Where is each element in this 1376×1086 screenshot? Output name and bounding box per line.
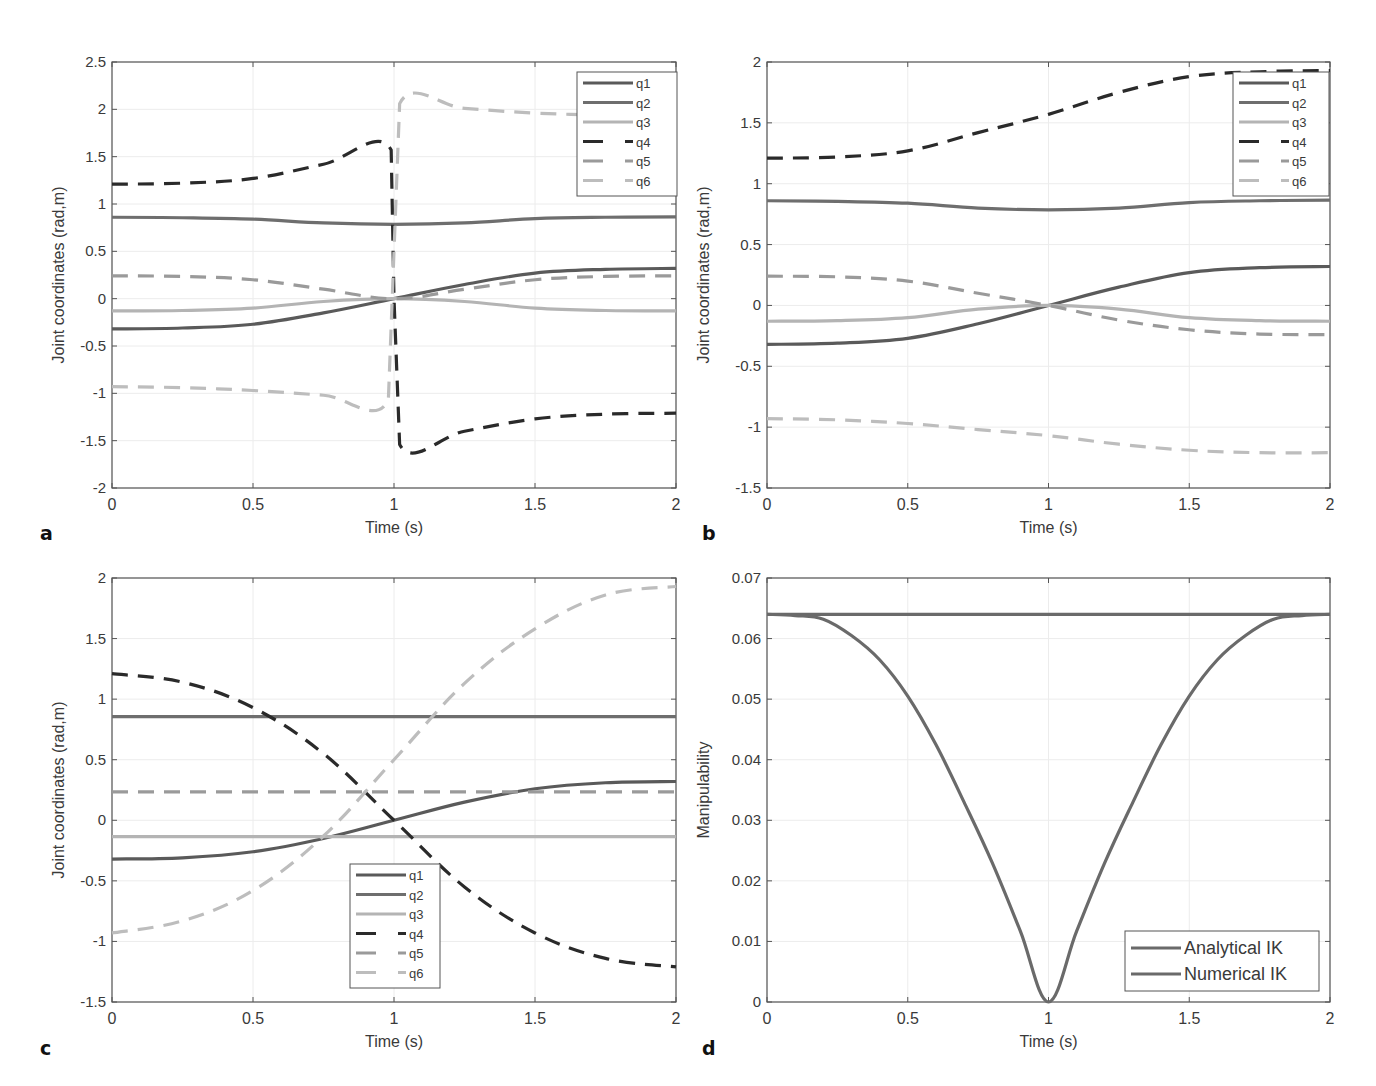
y-tick-label: 0: [98, 290, 106, 307]
y-tick-label: -0.5: [80, 872, 106, 889]
x-tick-label: 0: [763, 496, 772, 513]
x-axis-label: Time (s): [365, 1033, 423, 1050]
y-tick-label: 2: [98, 569, 106, 586]
panel-letter-d: d: [702, 1037, 716, 1059]
y-tick-label: 0.5: [740, 236, 761, 253]
legend: Analytical IKNumerical IK: [1125, 931, 1319, 991]
y-tick-label: 0.03: [732, 811, 761, 828]
legend-entry: q6: [1292, 174, 1306, 189]
x-tick-label: 2: [1326, 496, 1335, 513]
y-tick-label: -1.5: [735, 479, 761, 496]
y-tick-label: -1: [748, 418, 761, 435]
legend: q1q2q3q4q5q6: [350, 864, 440, 988]
x-tick-label: 0: [108, 496, 117, 513]
x-tick-label: 1: [1044, 496, 1053, 513]
panel-letter-c: c: [40, 1037, 51, 1059]
x-tick-label: 0.5: [897, 1010, 919, 1027]
legend-entry: q3: [409, 907, 423, 922]
y-axis-label: Joint coordinates (rad,m): [50, 702, 67, 879]
x-tick-label: 2: [1326, 1010, 1335, 1027]
y-tick-label: 1: [98, 690, 106, 707]
legend-entry: q3: [636, 115, 650, 130]
panel-b: 00.511.52-1.5-1-0.500.511.52Time (s)Join…: [688, 0, 1376, 543]
panel-a: 00.511.52-2-1.5-1-0.500.511.522.5Time (s…: [0, 0, 688, 543]
x-axis-label: Time (s): [365, 519, 423, 536]
legend-entry: Numerical IK: [1184, 964, 1287, 984]
legend-entry: Analytical IK: [1184, 938, 1283, 958]
legend-entry: q1: [1292, 76, 1306, 91]
x-tick-label: 1: [390, 1010, 399, 1027]
x-tick-label: 1.5: [524, 496, 546, 513]
y-tick-label: -1: [93, 932, 106, 949]
y-tick-label: 0.5: [85, 751, 106, 768]
legend-entry: q5: [1292, 154, 1306, 169]
x-tick-label: 0: [108, 1010, 117, 1027]
chart-c: 00.511.52-1.5-1-0.500.511.52Time (s)Join…: [0, 543, 688, 1086]
x-tick-label: 0: [763, 1010, 772, 1027]
y-tick-label: -1.5: [80, 993, 106, 1010]
x-tick-label: 0.5: [242, 1010, 264, 1027]
y-tick-label: 2: [753, 53, 761, 70]
y-tick-label: 0.01: [732, 932, 761, 949]
x-tick-label: 2: [672, 1010, 681, 1027]
y-tick-label: 0: [753, 993, 761, 1010]
chart-a: 00.511.52-2-1.5-1-0.500.511.522.5Time (s…: [0, 0, 688, 543]
legend-entry: q4: [409, 927, 423, 942]
legend: q1q2q3q4q5q6: [1233, 72, 1329, 196]
y-tick-label: 1: [753, 175, 761, 192]
x-tick-label: 0.5: [897, 496, 919, 513]
x-tick-label: 1.5: [1178, 496, 1200, 513]
y-tick-label: 0.04: [732, 751, 761, 768]
legend-entry: q1: [409, 868, 423, 883]
y-tick-label: 1.5: [85, 630, 106, 647]
y-axis-label: Joint coordinates (rad,m): [50, 187, 67, 364]
chart-d: 00.511.5200.010.020.030.040.050.060.07Ti…: [688, 543, 1376, 1086]
y-tick-label: -0.5: [80, 337, 106, 354]
chart-b: 00.511.52-1.5-1-0.500.511.52Time (s)Join…: [688, 0, 1376, 543]
legend-entry: q2: [409, 888, 423, 903]
panel-d: 00.511.5200.010.020.030.040.050.060.07Ti…: [688, 543, 1376, 1086]
legend-entry: q5: [409, 946, 423, 961]
y-axis-label: Joint coordinates (rad,m): [695, 187, 712, 364]
y-tick-label: 1.5: [85, 148, 106, 165]
legend-entry: q6: [409, 966, 423, 981]
legend-entry: q2: [1292, 96, 1306, 111]
y-tick-label: 2.5: [85, 53, 106, 70]
legend-entry: q3: [1292, 115, 1306, 130]
legend-entry: q4: [1292, 135, 1306, 150]
x-tick-label: 0.5: [242, 496, 264, 513]
y-tick-label: 0.05: [732, 690, 761, 707]
panel-letter-a: a: [40, 522, 53, 544]
panel-letter-b: b: [702, 522, 716, 544]
legend-entry: q6: [636, 174, 650, 189]
legend-entry: q5: [636, 154, 650, 169]
y-tick-label: -2: [93, 479, 106, 496]
y-tick-label: 2: [98, 100, 106, 117]
y-tick-label: -1.5: [80, 432, 106, 449]
x-axis-label: Time (s): [1019, 519, 1077, 536]
x-tick-label: 1.5: [524, 1010, 546, 1027]
legend-entry: q1: [636, 76, 650, 91]
legend-entry: q4: [636, 135, 650, 150]
y-tick-label: 0: [753, 296, 761, 313]
x-tick-label: 1: [1044, 1010, 1053, 1027]
y-tick-label: -1: [93, 384, 106, 401]
y-tick-label: 1.5: [740, 114, 761, 131]
x-axis-label: Time (s): [1019, 1033, 1077, 1050]
y-tick-label: 1: [98, 195, 106, 212]
legend-entry: q2: [636, 96, 650, 111]
y-axis-label: Manipulability: [695, 742, 712, 839]
y-tick-label: 0.02: [732, 872, 761, 889]
x-tick-label: 1: [390, 496, 399, 513]
y-tick-label: 0.06: [732, 630, 761, 647]
legend: q1q2q3q4q5q6: [577, 72, 677, 196]
y-tick-label: 0.07: [732, 569, 761, 586]
y-tick-label: 0.5: [85, 242, 106, 259]
x-tick-label: 1.5: [1178, 1010, 1200, 1027]
y-tick-label: 0: [98, 811, 106, 828]
y-tick-label: -0.5: [735, 357, 761, 374]
x-tick-label: 2: [672, 496, 681, 513]
panel-c: 00.511.52-1.5-1-0.500.511.52Time (s)Join…: [0, 543, 688, 1086]
